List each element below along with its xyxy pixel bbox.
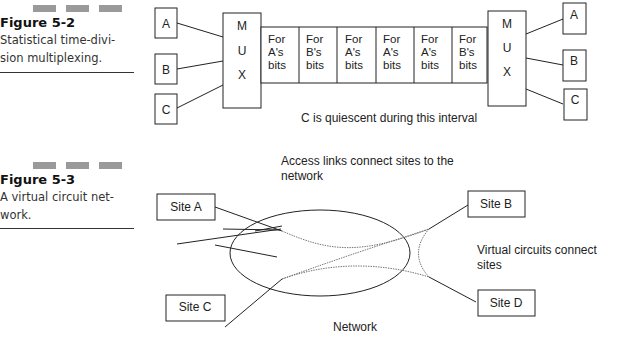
access-links-label: network bbox=[281, 169, 324, 183]
vc-diagram bbox=[177, 210, 410, 296]
input-label-a: A bbox=[162, 17, 170, 31]
slot-text: bits bbox=[421, 59, 439, 71]
mux-letter: U bbox=[238, 44, 247, 58]
slot-text: bits bbox=[268, 59, 286, 71]
slot-text: For bbox=[306, 33, 323, 45]
slot-text: For bbox=[459, 33, 476, 45]
mux-letter: X bbox=[238, 68, 246, 82]
site-b-label: Site B bbox=[480, 197, 512, 211]
mux-letter: M bbox=[237, 19, 247, 33]
slot-text: For bbox=[268, 33, 285, 45]
quiescent-note: C is quiescent during this interval bbox=[301, 111, 477, 125]
site-a-label: Site A bbox=[170, 200, 201, 214]
diagrams-canvas: A B C M U X M U X A B C For A's bits For… bbox=[0, 0, 619, 348]
site-c-label: Site C bbox=[179, 300, 212, 314]
virtual-circuits-label: Virtual circuits connect bbox=[477, 243, 597, 257]
virtual-circuits-label: sites bbox=[477, 258, 502, 272]
slot-text: bits bbox=[306, 59, 324, 71]
slot-text: For bbox=[345, 33, 362, 45]
slot-text: bits bbox=[383, 59, 401, 71]
slot-text: A's bbox=[268, 46, 284, 58]
mux-letter: U bbox=[503, 41, 512, 55]
site-d-label: Site D bbox=[490, 296, 523, 310]
access-links-label: Access links connect sites to the bbox=[281, 154, 454, 168]
mux-letter: X bbox=[503, 65, 511, 79]
output-label-a: A bbox=[570, 8, 578, 22]
output-label-b: B bbox=[570, 54, 578, 68]
slot-text: A's bbox=[345, 46, 361, 58]
slot-text: bits bbox=[345, 59, 363, 71]
output-label-c: C bbox=[571, 93, 580, 107]
slot-text: For bbox=[421, 33, 438, 45]
slot-text: B's bbox=[459, 46, 475, 58]
input-label-b: B bbox=[162, 63, 170, 77]
mux-letter: M bbox=[502, 17, 512, 31]
slot-text: A's bbox=[421, 46, 437, 58]
slot-text: A's bbox=[383, 46, 399, 58]
virtual-circuits bbox=[282, 229, 429, 279]
input-label-c: C bbox=[162, 103, 171, 117]
slot-text: For bbox=[383, 33, 400, 45]
slot-text: B's bbox=[306, 46, 322, 58]
tdm-diagram bbox=[155, 3, 587, 124]
slot-frame bbox=[261, 27, 487, 83]
network-label: Network bbox=[333, 320, 378, 334]
slot-text: bits bbox=[459, 59, 477, 71]
